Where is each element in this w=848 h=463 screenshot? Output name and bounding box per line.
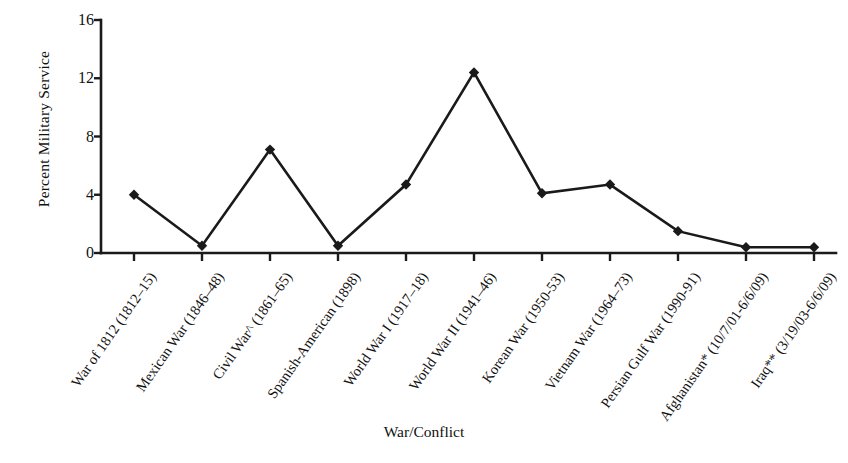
x-axis-title: War/Conflict (0, 423, 848, 441)
x-axis-tick-labels: War of 1812 (1812–15)Mexican War (1846–4… (0, 0, 848, 463)
chart-figure: Percent Military Service 0481216 War of … (0, 0, 848, 463)
